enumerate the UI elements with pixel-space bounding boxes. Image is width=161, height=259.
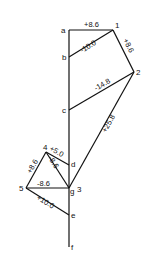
point-c: c — [62, 106, 66, 115]
point-f: f — [71, 243, 74, 252]
value-5-3: -8.6 — [37, 179, 50, 188]
point-a: a — [61, 26, 66, 35]
force-diagram: a b c d g e f 1 2 3 4 5 +8.6 -10.0 +8.6 … — [0, 0, 161, 259]
point-3: 3 — [77, 185, 82, 194]
value-2-3: +25.8 — [100, 113, 117, 134]
point-5: 5 — [19, 184, 24, 193]
member-c-2 — [69, 72, 134, 110]
point-d: d — [71, 160, 75, 169]
point-g: g — [70, 187, 74, 196]
point-2: 2 — [136, 68, 141, 77]
point-4: 4 — [43, 143, 48, 152]
diagram-canvas: a b c d g e f 1 2 3 4 5 +8.6 -10.0 +8.6 … — [0, 0, 161, 259]
point-b: b — [62, 53, 67, 62]
point-1: 1 — [115, 21, 120, 30]
value-a-1: +8.6 — [84, 20, 99, 29]
point-e: e — [71, 211, 76, 220]
value-5-e: +10.0 — [35, 193, 56, 210]
